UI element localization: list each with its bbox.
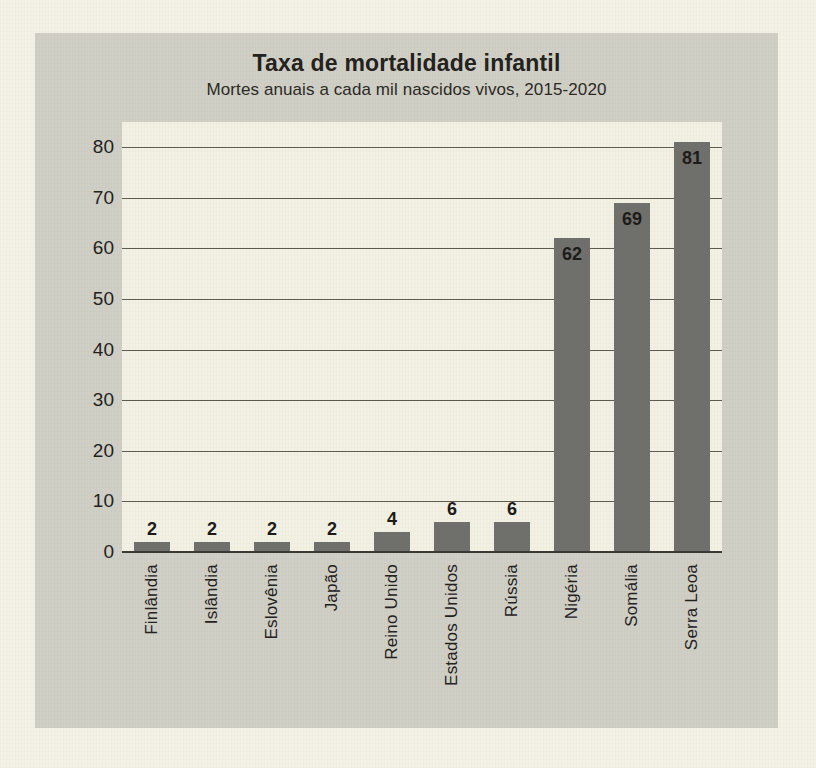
x-axis-category-label: Somália [622, 564, 642, 627]
bar-slot: 69 [614, 122, 650, 552]
y-axis-tick-label: 30 [74, 389, 114, 411]
bars-container: 2222466626981 [122, 122, 722, 552]
y-axis-tick-label: 40 [74, 339, 114, 361]
bar[interactable]: 6 [434, 522, 470, 552]
bar-value-label: 4 [387, 509, 397, 530]
y-axis-tick-label: 50 [74, 288, 114, 310]
chart-figure-panel: Taxa de mortalidade infantil Mortes anua… [35, 33, 778, 728]
bar-slot: 2 [254, 122, 290, 552]
bar-value-label: 6 [447, 499, 457, 520]
bar-value-label: 6 [507, 499, 517, 520]
x-axis-category-label: Estados Unidos [442, 564, 462, 686]
y-axis-tick-label: 70 [74, 187, 114, 209]
chart-subtitle: Mortes anuais a cada mil nascidos vivos,… [35, 80, 778, 100]
x-axis-category-labels: FinlândiaIslândiaEslovêniaJapãoReino Uni… [122, 554, 722, 714]
bar-value-label: 62 [562, 244, 582, 265]
bar[interactable]: 81 [674, 142, 710, 552]
bar-value-label: 69 [622, 209, 642, 230]
x-axis-category-label: Finlândia [142, 564, 162, 635]
bar[interactable]: 62 [554, 238, 590, 552]
y-axis-tick-label: 60 [74, 237, 114, 259]
bar-value-label: 2 [327, 519, 337, 540]
bar[interactable]: 4 [374, 532, 410, 552]
bar-slot: 6 [494, 122, 530, 552]
bar-value-label: 81 [682, 148, 702, 169]
bar[interactable]: 6 [494, 522, 530, 552]
y-axis-tick-label: 0 [74, 541, 114, 563]
y-axis-tick-label: 20 [74, 440, 114, 462]
bar-slot: 2 [134, 122, 170, 552]
x-axis-baseline [122, 551, 722, 553]
x-axis-category-label: Islândia [202, 564, 222, 624]
bar-slot: 4 [374, 122, 410, 552]
x-axis-category-label: Reino Unido [382, 564, 402, 660]
x-axis-category-label: Japão [322, 564, 342, 611]
x-axis-category-label: Eslovênia [262, 564, 282, 640]
bar-slot: 81 [674, 122, 710, 552]
bar-slot: 2 [194, 122, 230, 552]
bar-value-label: 2 [147, 519, 157, 540]
y-axis-tick-label: 80 [74, 136, 114, 158]
bar-slot: 62 [554, 122, 590, 552]
y-axis-tick-labels: 01020304050607080 [74, 122, 114, 552]
bar-value-label: 2 [207, 519, 217, 540]
y-axis-tick-label: 10 [74, 490, 114, 512]
x-axis-category-label: Rússia [502, 564, 522, 617]
bar-slot: 2 [314, 122, 350, 552]
bar[interactable]: 69 [614, 203, 650, 552]
chart-title: Taxa de mortalidade infantil [35, 50, 778, 77]
plot-area: 2222466626981 [122, 122, 722, 552]
bar-slot: 6 [434, 122, 470, 552]
x-axis-category-label: Serra Leoa [682, 564, 702, 650]
x-axis-category-label: Nigéria [562, 564, 582, 619]
bar-value-label: 2 [267, 519, 277, 540]
